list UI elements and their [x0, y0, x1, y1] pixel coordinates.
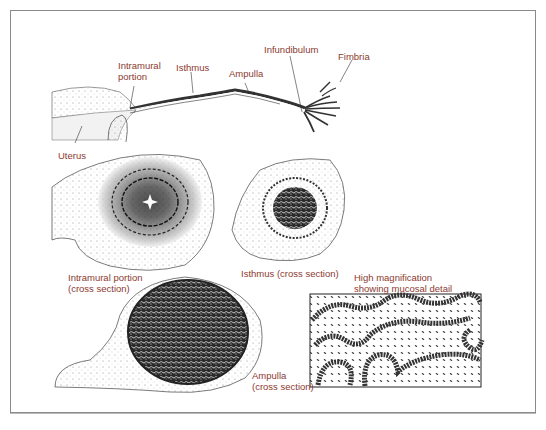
tube-drawing [130, 82, 340, 132]
label-ampulla: Ampulla [229, 68, 263, 79]
mucosal-detail-panel [310, 294, 482, 387]
label-isthmus: Isthmus [176, 62, 209, 73]
label-intramural-cross-section: Intramural portion (cross section) [68, 272, 142, 294]
label-ampulla-cross-section: Ampulla (cross section) [252, 370, 314, 392]
ampulla-cross-section [55, 277, 262, 392]
intramural-cross-section [52, 154, 214, 270]
label-uterus: Uterus [58, 150, 86, 161]
isthmus-cross-section [232, 159, 345, 261]
label-infundibulum: Infundibulum [264, 44, 318, 55]
uterus-drawing [52, 87, 136, 142]
label-fimbria: Fimbria [338, 51, 370, 62]
fallopian-tube-illustration [0, 0, 546, 430]
label-isthmus-cross-section: Isthmus (cross section) [241, 268, 339, 279]
label-intramural-portion: Intramural portion [118, 60, 161, 82]
label-high-magnification: High magnification showing mucosal detai… [354, 272, 452, 294]
